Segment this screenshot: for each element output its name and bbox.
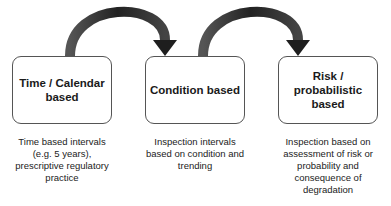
stage-title: Time / Calendar based: [19, 76, 104, 104]
stage-description-time: Time based intervals (e.g. 5 years), pre…: [2, 136, 122, 184]
arrow-time-to-condition: [70, 12, 177, 56]
arrow-condition-to-risk: [203, 12, 310, 56]
stage-title: Risk / probabilistic based: [294, 69, 362, 111]
stage-box-condition: Condition based: [145, 56, 245, 124]
stage-description-condition: Inspection intervals based on condition …: [135, 136, 255, 172]
stage-box-time-calendar: Time / Calendar based: [12, 56, 112, 124]
stage-description-risk: Inspection based on assessment of risk o…: [268, 136, 388, 196]
stage-box-risk: Risk / probabilistic based: [278, 56, 378, 124]
stage-title: Condition based: [150, 83, 240, 97]
